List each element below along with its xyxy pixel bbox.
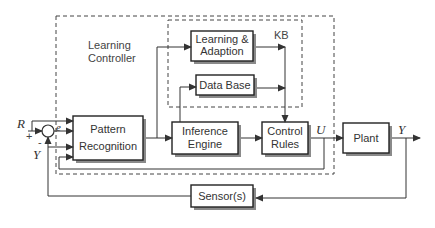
- data-base-block: Data Base: [196, 75, 257, 98]
- svg-text:Rules: Rules: [271, 138, 300, 150]
- plus-sign: +: [26, 130, 32, 142]
- signal-u-label: U: [316, 122, 327, 137]
- svg-text:Inference: Inference: [182, 125, 228, 137]
- svg-text:Sensor(s): Sensor(s): [198, 190, 246, 202]
- svg-text:Pattern: Pattern: [90, 123, 125, 135]
- svg-text:Recognition: Recognition: [79, 140, 137, 152]
- inference-to-database: [180, 87, 196, 122]
- sensors-block: Sensor(s): [191, 185, 256, 210]
- svg-text:Engine: Engine: [188, 138, 222, 150]
- signal-y-feedback-label: Y: [33, 147, 42, 162]
- learning-controller-diagram: Learning Controller KB Learning & Adapti…: [0, 0, 435, 228]
- learning-adaption-block: Learning & Adaption: [191, 31, 256, 64]
- svg-text:Adaption: Adaption: [200, 45, 243, 57]
- svg-text:Plant: Plant: [353, 132, 378, 144]
- signal-y-output-label: Y: [398, 122, 407, 137]
- learning-controller-label-line2: Controller: [88, 52, 136, 64]
- control-rules-block: Control Rules: [262, 122, 311, 157]
- learning-controller-label-line1: Learning: [88, 39, 131, 51]
- kb-label: KB: [274, 29, 289, 41]
- pattern-recognition-block: Pattern Recognition: [73, 116, 146, 163]
- summing-junction: [42, 125, 54, 137]
- svg-text:Learning &: Learning &: [195, 33, 249, 45]
- svg-text:Control: Control: [267, 125, 302, 137]
- plant-block: Plant: [343, 123, 392, 156]
- inference-engine-block: Inference Engine: [172, 122, 241, 157]
- svg-text:Data Base: Data Base: [199, 79, 250, 91]
- signal-r-label: R: [16, 116, 25, 131]
